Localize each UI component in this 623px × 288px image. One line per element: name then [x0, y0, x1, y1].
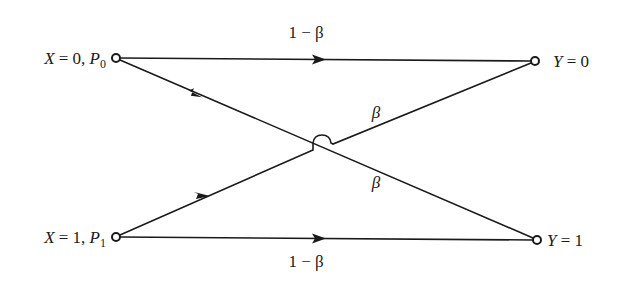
edge-label-x1-y1: 1 − β [288, 252, 323, 271]
edge-label-x0-y1: β [371, 173, 381, 192]
bsc-diagram: X = 0, P0 X = 1, P1 Y = 0 Y = 1 1 − β β … [0, 0, 623, 288]
node-x0 [112, 54, 120, 62]
node-y0 [531, 57, 539, 65]
arrow-icon-x1-y0 [194, 192, 210, 199]
input-label-x0: X = 0, P0 [43, 49, 106, 71]
edge-label-x0-y0: 1 − β [288, 23, 323, 42]
node-y1 [533, 236, 541, 244]
input-label-x1: X = 1, P1 [43, 228, 106, 250]
output-label-y0: Y = 0 [553, 52, 589, 71]
edge-x1-y1 [120, 237, 533, 240]
node-x1 [112, 233, 120, 241]
output-label-y1: Y = 1 [547, 231, 583, 250]
edge-label-x1-y0: β [371, 103, 381, 122]
